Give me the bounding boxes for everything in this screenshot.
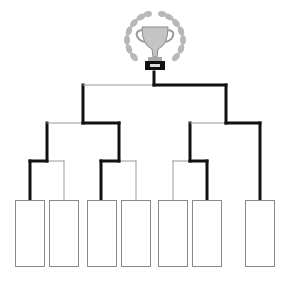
bracket-slot-1[interactable] bbox=[15, 200, 45, 267]
trophy-icon bbox=[120, 5, 190, 75]
bracket-slot-5[interactable] bbox=[158, 200, 188, 267]
bracket-slot-2[interactable] bbox=[49, 200, 79, 267]
bracket-slot-4[interactable] bbox=[121, 200, 151, 267]
bracket-slot-7[interactable] bbox=[245, 200, 275, 267]
cup-icon bbox=[137, 27, 174, 70]
bracket-slot-3[interactable] bbox=[87, 200, 117, 267]
bracket-slot-6[interactable] bbox=[192, 200, 222, 267]
